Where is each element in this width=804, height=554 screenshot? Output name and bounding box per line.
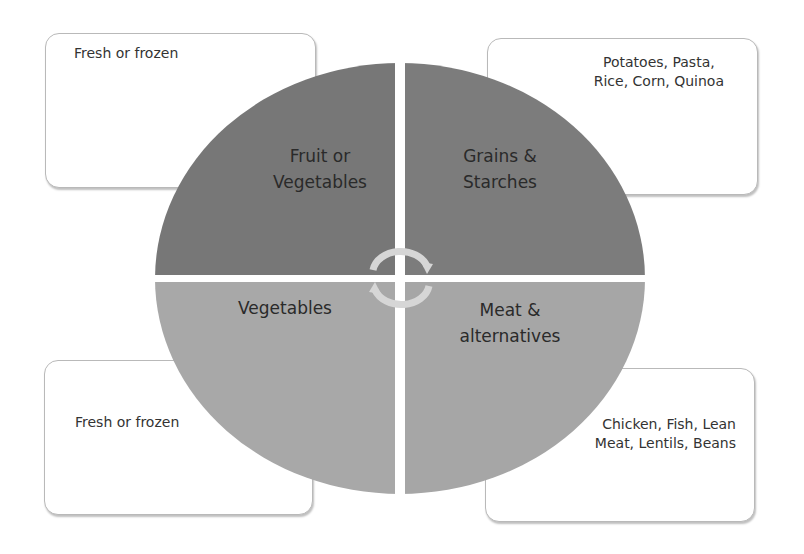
quadrant-label: Vegetables — [215, 295, 355, 321]
quadrant-fruit-or-vegetables: Fruit or Vegetables — [155, 63, 395, 275]
quadrant-label: Meat & alternatives — [425, 297, 595, 349]
cycle-arrows-icon — [365, 240, 437, 316]
quadrant-label: Fruit or Vegetables — [255, 143, 385, 195]
quadrant-meat-alternatives: Meat & alternatives — [405, 282, 645, 494]
quadrant-label: Grains & Starches — [435, 143, 565, 195]
quadrant-grains-starches: Grains & Starches — [405, 63, 645, 275]
quadrant-vegetables: Vegetables — [155, 282, 395, 494]
note-text: Fresh or frozen — [74, 44, 178, 63]
